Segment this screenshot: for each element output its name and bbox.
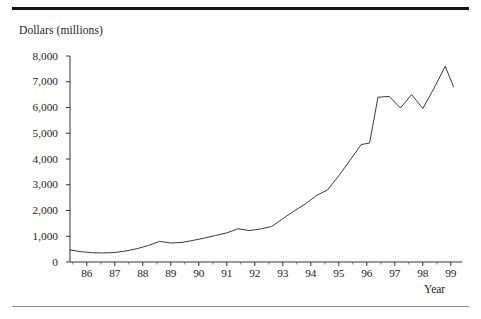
- y-axis-tick-label: 6,000: [10, 102, 58, 113]
- x-axis-tick-label: 97: [381, 268, 409, 279]
- axis-lines: [70, 56, 462, 262]
- x-axis-tick-label: 98: [409, 268, 437, 279]
- x-axis-tick-label: 94: [297, 268, 325, 279]
- x-axis-tick-label: 99: [437, 268, 465, 279]
- y-axis-tick-label: 2,000: [10, 205, 58, 216]
- data-series-line: [70, 66, 454, 253]
- y-axis-tick-label: 0: [10, 257, 58, 268]
- y-axis-tick-label: 7,000: [10, 76, 58, 87]
- x-axis-tick-label: 92: [241, 268, 269, 279]
- y-axis-tick-label: 3,000: [10, 179, 58, 190]
- y-axis-tick-label: 1,000: [10, 231, 58, 242]
- x-axis-tick-label: 86: [73, 268, 101, 279]
- y-axis-tick-label: 8,000: [10, 51, 58, 62]
- y-axis-tick-label: 4,000: [10, 154, 58, 165]
- y-axis-ticks: [66, 56, 70, 262]
- x-axis-tick-label: 96: [353, 268, 381, 279]
- x-axis-tick-label: 90: [185, 268, 213, 279]
- x-axis-tick-label: 91: [213, 268, 241, 279]
- x-axis-tick-label: 88: [129, 268, 157, 279]
- y-axis-tick-label: 5,000: [10, 128, 58, 139]
- x-axis-tick-label: 95: [325, 268, 353, 279]
- x-axis-tick-label: 93: [269, 268, 297, 279]
- figure-container: Dollars (millions) Year 01,0002,0003,000…: [0, 0, 481, 319]
- x-axis-tick-label: 89: [157, 268, 185, 279]
- x-axis-tick-label: 87: [101, 268, 129, 279]
